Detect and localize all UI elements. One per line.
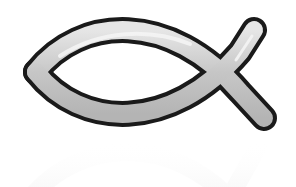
ichthys-svg	[0, 0, 296, 187]
fish-symbol	[36, 30, 264, 118]
ichthys-image	[0, 0, 296, 187]
fish-reflection	[32, 140, 262, 187]
